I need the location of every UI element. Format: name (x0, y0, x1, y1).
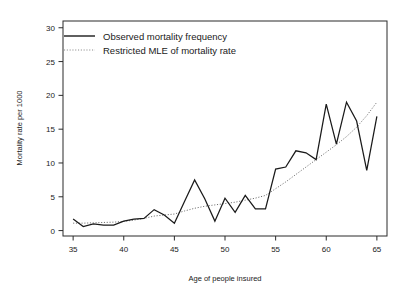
x-tick-label: 45 (170, 245, 179, 254)
y-tick-label: 30 (46, 24, 55, 33)
x-tick-label: 40 (119, 245, 128, 254)
y-tick-label: 10 (46, 159, 55, 168)
legend-label-observed: Observed mortality frequency (103, 31, 227, 42)
y-tick-label: 5 (51, 193, 56, 202)
x-tick-label: 65 (372, 245, 381, 254)
y-tick-label: 25 (46, 58, 55, 67)
y-tick-label: 20 (46, 91, 55, 100)
y-axis-title: Mortality rate per 1000 (15, 90, 24, 165)
y-axis-ticks: 051015202530 (46, 24, 63, 236)
x-tick-label: 35 (69, 245, 78, 254)
chart-legend: Observed mortality frequency Restricted … (64, 31, 236, 56)
restricted-mle-line (73, 102, 377, 223)
y-tick-label: 0 (51, 227, 56, 236)
legend-label-mle: Restricted MLE of mortality rate (103, 45, 236, 56)
y-tick-label: 15 (46, 125, 55, 134)
x-axis-title: Age of people insured (189, 274, 262, 283)
x-tick-label: 50 (221, 245, 230, 254)
x-tick-label: 60 (322, 245, 331, 254)
mortality-rate-chart: 35404550556065 051015202530 Age of peopl… (0, 0, 410, 297)
x-tick-label: 55 (271, 245, 280, 254)
x-axis-ticks: 35404550556065 (69, 236, 382, 254)
observed-mortality-line (73, 102, 377, 226)
